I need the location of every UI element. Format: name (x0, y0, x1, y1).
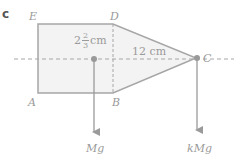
fraction-denominator: 3 (83, 41, 88, 50)
vertex-d-label: D (110, 11, 119, 22)
fraction-numerator: 2 (82, 31, 89, 41)
diagram-canvas (0, 0, 234, 164)
mg-force-label: Mg (86, 143, 104, 154)
left-dimension-label: 2 2 3 cm (74, 31, 107, 50)
vertex-e-label: E (29, 11, 37, 22)
left-dimension-whole: 2 (74, 35, 81, 46)
vertex-c-label: C (203, 53, 211, 64)
lamina-shape (38, 24, 196, 93)
vertex-a-label: A (28, 97, 36, 108)
left-dimension-fraction: 2 3 (82, 31, 89, 50)
kmg-force-label: kMg (187, 143, 212, 154)
part-label: c (2, 7, 9, 21)
right-dimension-label: 12 cm (132, 46, 166, 57)
left-dimension-unit: cm (90, 35, 107, 46)
vertex-b-label: B (112, 97, 120, 108)
